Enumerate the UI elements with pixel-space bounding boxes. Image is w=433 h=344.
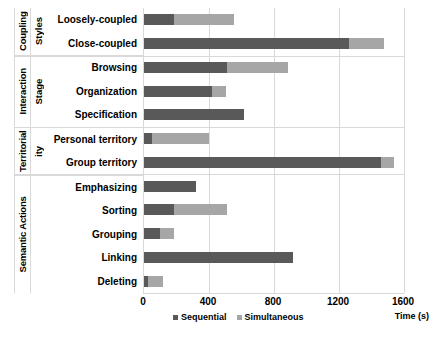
stacked-bar[interactable] bbox=[144, 109, 244, 120]
x-tick-label-400: 400 bbox=[200, 296, 217, 307]
stacked-bar[interactable] bbox=[144, 86, 226, 97]
category-label-organization: Organization bbox=[46, 80, 143, 104]
category-label-group-territory: Group territory bbox=[46, 151, 143, 175]
x-tick-label-1600: 1600 bbox=[392, 296, 414, 307]
legend-swatch-sequential-icon bbox=[173, 315, 178, 320]
category-group-interaction: Interaction Stage Browsing Organization … bbox=[14, 55, 143, 127]
category-label-browsing: Browsing bbox=[46, 56, 143, 80]
bar-row[interactable] bbox=[144, 103, 404, 127]
stacked-bar[interactable] bbox=[144, 38, 384, 49]
bar-segment-simultaneous[interactable] bbox=[174, 204, 227, 215]
legend-item-simultaneous: Simultaneous bbox=[237, 312, 304, 322]
x-axis-title: Time (s) bbox=[395, 311, 429, 321]
category-group-territoriality: Territorial ity Personal territory Group… bbox=[14, 127, 143, 175]
bar-row[interactable] bbox=[144, 56, 404, 80]
stacked-bar[interactable] bbox=[144, 204, 227, 215]
plot-area bbox=[143, 8, 404, 293]
category-list-coupling: Loosely-coupled Close-coupled bbox=[46, 8, 143, 55]
category-list-semantic-actions: Emphasizing Sorting Grouping Linking Del… bbox=[46, 176, 143, 294]
stacked-bar[interactable] bbox=[144, 157, 394, 168]
bar-row[interactable] bbox=[144, 8, 404, 32]
legend-item-sequential: Sequential bbox=[173, 312, 227, 322]
legend-swatch-simultaneous-icon bbox=[237, 315, 242, 320]
group-sublabel-ity: ity bbox=[30, 128, 46, 175]
stacked-bar[interactable] bbox=[144, 252, 293, 263]
bar-segment-simultaneous[interactable] bbox=[212, 86, 226, 97]
bar-segment-simultaneous[interactable] bbox=[152, 133, 209, 144]
group-label-semantic-actions: Semantic Actions bbox=[14, 176, 30, 294]
x-axis-line bbox=[143, 293, 404, 294]
gridline-1600 bbox=[404, 8, 405, 293]
stacked-bar[interactable] bbox=[144, 181, 196, 192]
stacked-bar[interactable] bbox=[144, 276, 163, 287]
bar-segment-sequential[interactable] bbox=[144, 38, 349, 49]
x-axis-ticks: 040080012001600 bbox=[143, 296, 403, 310]
bar-segment-simultaneous[interactable] bbox=[381, 157, 394, 168]
category-label-emphasizing: Emphasizing bbox=[46, 176, 143, 200]
category-group-semantic-actions: Semantic Actions Emphasizing Sorting Gro… bbox=[14, 175, 143, 294]
horizontal-stacked-bar-chart: Coupling Styles Loosely-coupled Close-co… bbox=[0, 0, 433, 344]
group-separator bbox=[15, 56, 404, 57]
category-label-linking: Linking bbox=[46, 246, 143, 270]
stacked-bar[interactable] bbox=[144, 228, 174, 239]
x-tick-label-800: 800 bbox=[265, 296, 282, 307]
bar-row[interactable] bbox=[144, 32, 404, 56]
x-tick-label-0: 0 bbox=[140, 296, 146, 307]
stacked-bar[interactable] bbox=[144, 14, 234, 25]
stacked-bar[interactable] bbox=[144, 62, 288, 73]
bar-segment-sequential[interactable] bbox=[144, 181, 196, 192]
category-label-block: Coupling Styles Loosely-coupled Close-co… bbox=[14, 8, 143, 293]
bar-segment-simultaneous[interactable] bbox=[160, 228, 174, 239]
stacked-bar[interactable] bbox=[144, 133, 209, 144]
category-label-deleting: Deleting bbox=[46, 270, 143, 294]
bar-segment-simultaneous[interactable] bbox=[349, 38, 384, 49]
bar-row[interactable] bbox=[144, 246, 404, 270]
group-separator bbox=[15, 127, 404, 128]
category-label-loosely-coupled: Loosely-coupled bbox=[46, 8, 143, 32]
bar-row[interactable] bbox=[144, 127, 404, 151]
bar-row[interactable] bbox=[144, 151, 404, 175]
bar-row[interactable] bbox=[144, 79, 404, 103]
category-label-specification: Specification bbox=[46, 103, 143, 127]
bar-row[interactable] bbox=[144, 174, 404, 198]
category-label-grouping: Grouping bbox=[46, 223, 143, 247]
group-sublabel-styles: Styles bbox=[30, 8, 46, 55]
category-group-coupling: Coupling Styles Loosely-coupled Close-co… bbox=[14, 8, 143, 55]
group-sublabel-stage: Stage bbox=[30, 56, 46, 127]
category-label-personal-territory: Personal territory bbox=[46, 128, 143, 152]
bar-row[interactable] bbox=[144, 198, 404, 222]
bar-segment-sequential[interactable] bbox=[144, 133, 152, 144]
group-separator bbox=[15, 174, 404, 175]
category-list-interaction: Browsing Organization Specification bbox=[46, 56, 143, 127]
group-sublabel-semantic-actions bbox=[30, 176, 46, 294]
bar-segment-simultaneous[interactable] bbox=[227, 62, 288, 73]
x-tick-label-1200: 1200 bbox=[327, 296, 349, 307]
bar-rows bbox=[144, 8, 404, 293]
bar-segment-simultaneous[interactable] bbox=[148, 276, 163, 287]
group-label-interaction: Interaction bbox=[14, 56, 30, 127]
legend-label-simultaneous: Simultaneous bbox=[245, 312, 304, 322]
bar-segment-sequential[interactable] bbox=[144, 252, 293, 263]
bar-segment-sequential[interactable] bbox=[144, 109, 244, 120]
bar-segment-sequential[interactable] bbox=[144, 204, 174, 215]
bar-segment-simultaneous[interactable] bbox=[174, 14, 234, 25]
group-label-coupling: Coupling bbox=[14, 8, 30, 55]
bar-segment-sequential[interactable] bbox=[144, 157, 381, 168]
bar-row[interactable] bbox=[144, 269, 404, 293]
group-label-territorial: Territorial bbox=[14, 128, 30, 175]
bar-segment-sequential[interactable] bbox=[144, 86, 212, 97]
category-label-close-coupled: Close-coupled bbox=[46, 32, 143, 56]
bar-segment-sequential[interactable] bbox=[144, 14, 174, 25]
bar-segment-sequential[interactable] bbox=[144, 62, 227, 73]
chart-legend: Sequential Simultaneous bbox=[173, 312, 304, 322]
bar-segment-sequential[interactable] bbox=[144, 228, 160, 239]
category-list-territoriality: Personal territory Group territory bbox=[46, 128, 143, 175]
bar-row[interactable] bbox=[144, 222, 404, 246]
legend-label-sequential: Sequential bbox=[181, 312, 227, 322]
category-label-sorting: Sorting bbox=[46, 199, 143, 223]
